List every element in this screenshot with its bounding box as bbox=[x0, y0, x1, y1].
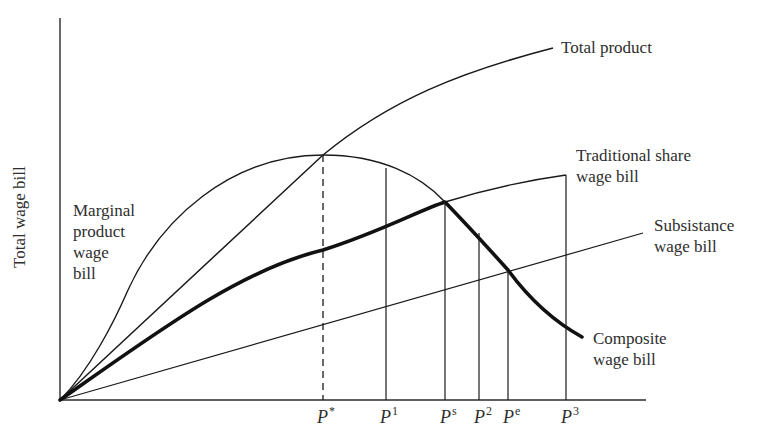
tick-pe: Pe bbox=[503, 404, 520, 428]
tick-ps: Ps bbox=[440, 404, 457, 428]
subsistence-label-line1: Subsistance bbox=[654, 215, 734, 236]
subsistence-wage-bill-line bbox=[60, 233, 643, 400]
marginal-product-label-line1: Marginal bbox=[73, 200, 135, 221]
composite-label-line2: wage bill bbox=[593, 349, 667, 370]
y-axis-label: Total wage bill bbox=[10, 166, 30, 268]
traditional-share-wage-bill-curve bbox=[60, 175, 566, 400]
total-product-label: Total product bbox=[561, 37, 652, 58]
subsistence-label: Subsistance wage bill bbox=[654, 215, 734, 257]
traditional-share-label-line2: wage bill bbox=[576, 166, 691, 187]
marginal-product-label-line3: wage bbox=[73, 242, 135, 263]
composite-label: Composite wage bill bbox=[593, 328, 667, 370]
marginal-product-label-line2: product bbox=[73, 221, 135, 242]
traditional-share-label-line1: Traditional share bbox=[576, 145, 691, 166]
tick-p1: P1 bbox=[380, 404, 398, 428]
tick-p-star: P* bbox=[317, 404, 335, 428]
subsistence-label-line2: wage bill bbox=[654, 236, 734, 257]
composite-wage-bill-curve bbox=[60, 202, 582, 400]
tick-p3: P3 bbox=[561, 404, 579, 428]
tick-p2: P2 bbox=[474, 404, 492, 428]
traditional-share-label: Traditional share wage bill bbox=[576, 145, 691, 187]
composite-label-line1: Composite bbox=[593, 328, 667, 349]
marginal-product-label-line4: bill bbox=[73, 263, 135, 284]
marginal-product-label: Marginal product wage bill bbox=[73, 200, 135, 284]
